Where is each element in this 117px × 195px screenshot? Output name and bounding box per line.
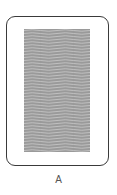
card-label: A <box>0 174 117 185</box>
card-option[interactable]: A <box>0 0 117 195</box>
wavy-pattern-icon <box>24 29 90 152</box>
card-back-pattern <box>24 29 90 152</box>
